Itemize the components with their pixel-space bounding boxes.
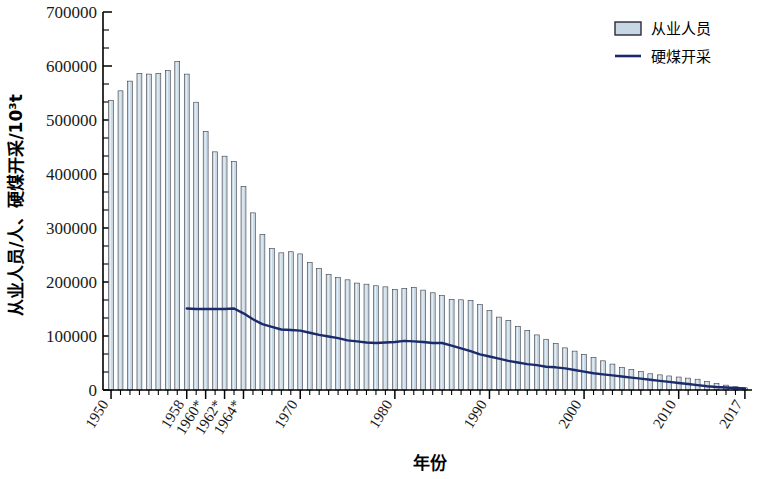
- bar-highlight: [470, 301, 471, 390]
- bar-highlight: [611, 365, 612, 390]
- bar: [411, 287, 416, 390]
- bar-highlight: [318, 269, 319, 390]
- bar-highlight: [176, 62, 177, 389]
- bar-highlight: [649, 374, 650, 389]
- bar-highlight: [479, 305, 480, 389]
- bar: [534, 335, 539, 390]
- bar: [194, 102, 199, 390]
- bar-highlight: [120, 91, 121, 389]
- bar: [118, 91, 123, 390]
- bar-highlight: [280, 253, 281, 389]
- bar: [298, 254, 303, 390]
- bar: [392, 290, 397, 390]
- bar-highlight: [129, 82, 130, 390]
- bar-highlight: [214, 152, 215, 389]
- y-tick-label: 200000: [46, 273, 97, 292]
- bar: [619, 367, 624, 390]
- bar-highlight: [432, 293, 433, 389]
- chart-canvas: 从业人员/人、硬煤开采/10³t 年份 01000002000003000004…: [0, 0, 760, 479]
- bar: [241, 186, 246, 390]
- bar: [421, 290, 426, 390]
- legend-swatch-employment: [615, 22, 641, 35]
- bar-highlight: [195, 103, 196, 390]
- bar: [364, 284, 369, 390]
- bar: [402, 288, 407, 390]
- bar-highlight: [186, 75, 187, 390]
- bar: [213, 152, 218, 390]
- bar: [459, 300, 464, 390]
- bar-highlight: [630, 370, 631, 390]
- bar-highlight: [517, 327, 518, 390]
- bar-highlight: [536, 336, 537, 390]
- y-tick-label: 0: [89, 381, 98, 400]
- bar: [515, 326, 520, 390]
- y-tick-label: 700000: [46, 3, 97, 22]
- bar: [184, 74, 189, 390]
- bar: [610, 364, 615, 390]
- bar: [544, 339, 549, 390]
- bar-highlight: [233, 162, 234, 389]
- bar-highlight: [157, 74, 158, 389]
- bar-highlight: [384, 287, 385, 389]
- y-tick-label: 400000: [46, 165, 97, 184]
- bar-highlight: [545, 340, 546, 390]
- bar: [487, 311, 492, 390]
- bar-highlight: [640, 372, 641, 389]
- bar-highlight: [252, 213, 253, 389]
- y-tick-label: 300000: [46, 219, 97, 238]
- bar-highlight: [261, 235, 262, 390]
- bar: [657, 375, 662, 390]
- bar-highlight: [356, 284, 357, 390]
- x-axis-title: 年份: [413, 453, 448, 473]
- bar-highlight: [488, 311, 489, 389]
- bar-highlight: [403, 289, 404, 390]
- bar-highlight: [526, 331, 527, 389]
- bar: [109, 101, 114, 390]
- bar: [232, 162, 237, 390]
- bar: [175, 62, 180, 390]
- bar: [156, 74, 161, 390]
- bar: [430, 293, 435, 390]
- bar: [326, 274, 331, 390]
- bar: [355, 283, 360, 390]
- bar: [629, 369, 634, 390]
- legend-label-hard-coal: 硬煤开采: [651, 48, 711, 66]
- bar-highlight: [347, 280, 348, 389]
- bar: [648, 374, 653, 390]
- bar: [383, 287, 388, 390]
- bar-highlight: [290, 252, 291, 389]
- bar: [638, 372, 643, 390]
- bar: [288, 252, 293, 390]
- bar-highlight: [299, 255, 300, 390]
- y-tick-label: 600000: [46, 57, 97, 76]
- bar: [468, 300, 473, 390]
- bar-highlight: [110, 101, 111, 389]
- bar-highlight: [148, 75, 149, 390]
- y-tick-label: 500000: [46, 111, 97, 130]
- bar-highlight: [328, 275, 329, 390]
- bar-highlight: [337, 278, 338, 389]
- bar-highlight: [460, 300, 461, 389]
- bar-highlight: [138, 74, 139, 389]
- bar: [478, 305, 483, 390]
- bar: [269, 249, 274, 390]
- bar: [250, 213, 255, 390]
- bar-highlight: [394, 290, 395, 389]
- bar-highlight: [167, 71, 168, 390]
- bar-highlight: [659, 375, 660, 389]
- bar-highlight: [309, 263, 310, 389]
- y-axis-title: 从业人员/人、硬煤开采/10³t: [6, 94, 26, 316]
- bar: [203, 131, 208, 390]
- bar-highlight: [507, 321, 508, 390]
- bar: [525, 331, 530, 390]
- bar: [146, 74, 151, 390]
- bar: [165, 70, 170, 390]
- y-tick-label: 100000: [46, 327, 97, 346]
- bar-highlight: [365, 285, 366, 390]
- bar-highlight: [375, 286, 376, 389]
- bar: [345, 280, 350, 390]
- coal-employment-chart: 从业人员/人、硬煤开采/10³t 年份 01000002000003000004…: [0, 0, 760, 479]
- bar: [137, 74, 142, 390]
- bar-highlight: [422, 291, 423, 390]
- bar: [128, 81, 133, 390]
